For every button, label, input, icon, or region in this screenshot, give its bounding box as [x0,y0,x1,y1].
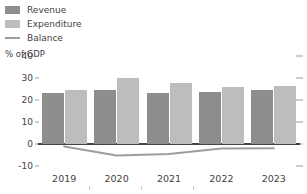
y-axis-tick-label: -10 [0,161,33,171]
y-axis-tick-label: 40 [0,51,33,61]
bar-expenditure-2022[interactable] [222,87,244,144]
y-axis-tick-mark-right [296,78,303,79]
bar-revenue-2021[interactable] [147,93,169,144]
bar-revenue-2023[interactable] [251,90,273,144]
chart-figure: Revenue Expenditure Balance % of GDP 403… [0,0,307,194]
x-axis-tick-label: 2019 [38,173,90,184]
y-axis-tick-label: 10 [0,117,33,127]
y-axis-tick-mark-right [296,56,303,57]
bar-expenditure-2021[interactable] [170,83,192,144]
x-axis-tick-label: 2023 [248,173,300,184]
x-axis-tick-label: 2022 [195,173,247,184]
y-axis-tick-mark [35,122,39,123]
bar-revenue-2019[interactable] [42,93,64,144]
bar-expenditure-2020[interactable] [117,78,139,144]
y-axis-tick-label: 20 [0,95,33,105]
x-axis-tick-label: 2021 [143,173,195,184]
balance-line-path [64,146,274,155]
bar-revenue-2022[interactable] [199,92,221,144]
y-axis-tick-mark [35,100,39,101]
bar-expenditure-2019[interactable] [65,90,87,144]
y-axis-tick-mark [35,166,39,167]
y-axis-tick-label: 0 [0,139,33,149]
y-axis-tick-mark-right [296,100,303,101]
x-axis-tick-label: 2020 [91,173,143,184]
bar-expenditure-2023[interactable] [274,86,296,144]
y-axis-tick-label: 30 [0,73,33,83]
footer-cut-text [12,188,15,194]
y-axis-tick-mark [35,78,39,79]
y-axis-tick-mark-right [296,166,303,167]
y-axis-tick-mark [35,56,39,57]
bar-revenue-2020[interactable] [94,90,116,144]
footer-axis-ticks [0,184,307,194]
y-axis-tick-mark-right [296,122,303,123]
plot-area: 403020100-1020192020202120222023 [0,0,307,194]
